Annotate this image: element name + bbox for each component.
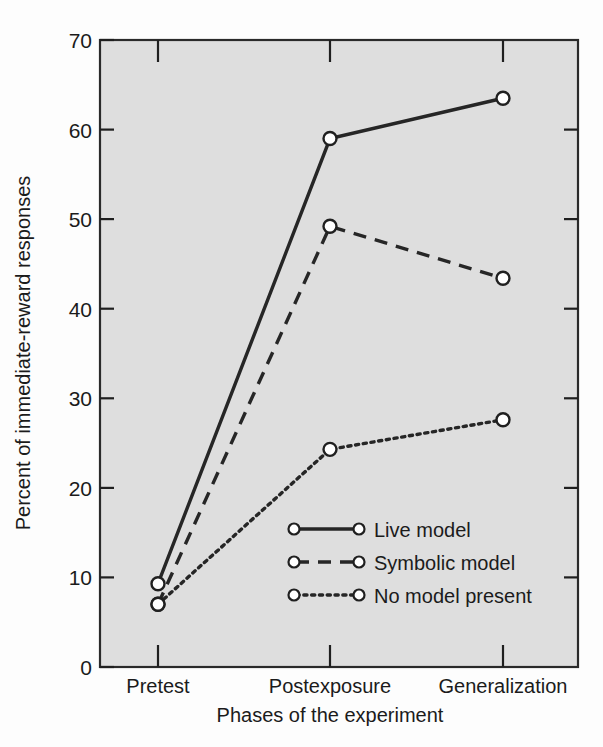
y-tick-label-50: 50 xyxy=(69,208,92,231)
line-chart: 70 60 50 40 30 20 10 0 Pretest Postexpos… xyxy=(0,0,603,747)
x-label-pretest: Pretest xyxy=(126,675,190,697)
data-point-no-model-present-postexposure xyxy=(324,443,337,456)
legend-label-symbolic-model: Symbolic model xyxy=(374,552,515,574)
legend-marker-right-symbolic-model xyxy=(354,557,365,568)
legend-label-no-model-present: No model present xyxy=(374,585,532,607)
y-tick-label-20: 20 xyxy=(69,477,92,500)
data-point-no-model-present-pretest xyxy=(152,598,165,611)
legend-marker-right-live-model xyxy=(354,524,365,535)
x-label-postexposure: Postexposure xyxy=(269,675,391,697)
y-tick-label-0: 0 xyxy=(80,656,92,679)
y-axis-tick-labels: 70 60 50 40 30 20 10 0 xyxy=(69,29,92,679)
data-point-live-model-pretest xyxy=(152,577,165,590)
x-label-generalization: Generalization xyxy=(439,675,568,697)
legend-marker-left-symbolic-model xyxy=(289,557,300,568)
y-tick-label-70: 70 xyxy=(69,29,92,52)
y-axis-title: Percent of immediate-reward responses xyxy=(12,176,34,531)
x-axis-category-labels: Pretest Postexposure Generalization xyxy=(126,675,567,697)
data-point-no-model-present-generalization xyxy=(497,413,510,426)
figure-container: 70 60 50 40 30 20 10 0 Pretest Postexpos… xyxy=(0,0,603,747)
x-axis-title: Phases of the experiment xyxy=(217,704,444,726)
data-point-symbolic-model-postexposure xyxy=(324,220,337,233)
y-tick-label-40: 40 xyxy=(69,298,92,321)
legend-marker-right-no-model-present xyxy=(354,590,365,601)
data-point-live-model-postexposure xyxy=(324,132,337,145)
y-tick-label-60: 60 xyxy=(69,119,92,142)
legend-marker-left-live-model xyxy=(289,524,300,535)
y-tick-label-10: 10 xyxy=(69,566,92,589)
y-tick-label-30: 30 xyxy=(69,387,92,410)
legend-marker-left-no-model-present xyxy=(289,590,300,601)
data-point-symbolic-model-generalization xyxy=(497,272,510,285)
data-point-live-model-generalization xyxy=(497,92,510,105)
legend-label-live-model: Live model xyxy=(374,519,471,541)
